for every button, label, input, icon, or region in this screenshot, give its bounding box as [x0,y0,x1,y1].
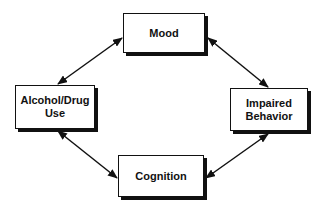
node-mood-label: Mood [149,27,178,40]
node-mood: Mood [123,13,205,53]
node-alcohol-drug-use: Alcohol/Drug Use [15,85,95,129]
node-alcohol-label-line2: Use [45,107,65,120]
arrow-cognition-alcohol [58,131,117,178]
node-alcohol-label-line1: Alcohol/Drug [20,94,89,107]
arrow-alcohol-mood [58,38,122,84]
node-impaired-label-line2: Behavior [245,110,292,123]
node-cognition: Cognition [118,155,204,197]
node-cognition-label: Cognition [135,170,186,183]
arrow-mood-impaired [208,38,268,87]
node-impaired-behavior: Impaired Behavior [230,88,308,131]
node-impaired-label-line1: Impaired [246,97,292,110]
arrow-impaired-cognition [206,134,268,178]
